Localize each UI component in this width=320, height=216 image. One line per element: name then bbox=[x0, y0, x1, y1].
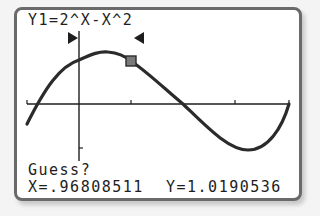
cursor-y-value: Y=1.0190536 bbox=[166, 179, 282, 195]
equation-label: Y1=2^X-X^2 bbox=[28, 12, 133, 28]
cursor-marker-icon bbox=[126, 56, 136, 66]
prompt-label: Guess? bbox=[28, 162, 91, 178]
function-curve bbox=[27, 52, 289, 150]
cursor-x-value: X=.96808511 bbox=[28, 179, 144, 195]
left-bound-marker-icon bbox=[68, 32, 78, 44]
right-bound-marker-icon bbox=[134, 32, 144, 44]
